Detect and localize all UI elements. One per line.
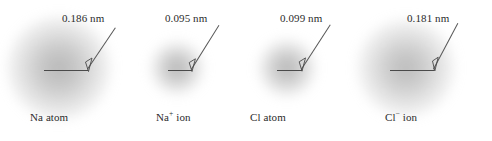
measurement-label-cl-ion: 0.181 nm — [407, 12, 449, 24]
species-label-na-ion: Na+ ion — [156, 111, 191, 123]
measurement-label-cl-atom: 0.099 nm — [280, 12, 322, 24]
species-suffix-na-ion: ion — [173, 111, 190, 123]
arrowhead-na-ion — [185, 56, 200, 73]
arrowhead-na-atom — [81, 55, 97, 73]
measurement-label-na-atom: 0.186 nm — [62, 12, 104, 24]
species-symbol-na-ion: Na — [156, 111, 169, 123]
panel-cl-ion: 0.181 nm Cl− ion — [353, 0, 492, 141]
species-label-cl-atom: Cl atom — [250, 111, 286, 123]
panel-na-atom: 0.186 nm Na atom — [0, 0, 123, 141]
panel-na-ion: 0.095 nm Na+ ion — [123, 0, 238, 141]
species-suffix-cl-ion: ion — [400, 111, 417, 123]
panel-cl-atom: 0.099 nm Cl atom — [238, 0, 353, 141]
species-symbol-cl-ion: Cl — [385, 111, 396, 123]
species-label-na-atom: Na atom — [30, 111, 68, 123]
arrowhead-cl-atom — [295, 55, 310, 73]
atomic-radii-figure: 0.186 nm Na atom 0.095 nm Na+ ion 0.099 … — [0, 0, 492, 141]
arrowhead-cl-ion — [428, 54, 443, 73]
measurement-label-na-ion: 0.095 nm — [165, 12, 207, 24]
species-label-cl-ion: Cl− ion — [385, 111, 417, 123]
